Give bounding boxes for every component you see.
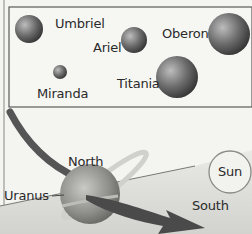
moon-oberon (208, 13, 250, 55)
moon-titania (156, 56, 198, 98)
label-oberon: Oberon (162, 26, 209, 41)
label-south: South (192, 198, 229, 213)
moon-umbriel (15, 15, 43, 43)
uranus-planet (60, 164, 120, 224)
label-ariel: Ariel (93, 40, 121, 55)
moon-ariel (121, 27, 147, 53)
label-north: North (68, 154, 103, 169)
label-titania: Titania (117, 76, 160, 91)
label-uranus: Uranus (4, 188, 49, 203)
label-umbriel: Umbriel (55, 16, 105, 31)
moon-miranda (53, 65, 67, 79)
uranus-diagram: Umbriel Ariel Oberon Miranda Titania Nor… (0, 0, 252, 234)
label-sun: Sun (218, 164, 242, 179)
label-miranda: Miranda (37, 86, 88, 101)
